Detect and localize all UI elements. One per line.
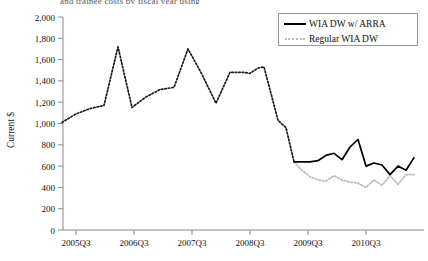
chart-figure: and trainee costs by fiscal year using 2… bbox=[0, 0, 428, 261]
y-tick-label: 800 bbox=[42, 140, 56, 150]
y-tick-label: 2,000 bbox=[35, 13, 56, 23]
y-axis-ticks bbox=[58, 17, 63, 230]
legend-solid-line-icon bbox=[284, 19, 306, 29]
x-axis-ticks bbox=[76, 230, 366, 235]
y-tick-label: 400 bbox=[42, 183, 56, 193]
x-tick-label: 2006Q3 bbox=[120, 238, 149, 248]
legend-label-regular: Regular WIA DW bbox=[309, 34, 378, 44]
y-tick-label: 1,400 bbox=[35, 76, 56, 86]
legend-entry-arra: WIA DW w/ ARRA bbox=[284, 16, 413, 31]
y-tick-label: 200 bbox=[42, 204, 56, 214]
legend-dotted-line-icon bbox=[284, 34, 306, 44]
x-tick-label: 2005Q3 bbox=[62, 238, 91, 248]
series-regular-wia-dw-early bbox=[62, 47, 294, 162]
y-tick-label: 1,800 bbox=[35, 34, 56, 44]
series-regular-wia-dw-late bbox=[294, 162, 414, 188]
x-axis-tick-labels: 2005Q3 2006Q3 2007Q3 2008Q3 2009Q3 2010Q… bbox=[62, 238, 381, 248]
y-axis-title: Current $ bbox=[6, 112, 16, 148]
chart-legend: WIA DW w/ ARRA Regular WIA DW bbox=[278, 13, 418, 46]
y-tick-label: 1,600 bbox=[35, 55, 56, 65]
y-axis-tick-labels: 2,000 1,800 1,600 1,400 1,200 1,000 800 … bbox=[35, 13, 56, 236]
y-tick-label: 0 bbox=[51, 226, 56, 236]
x-tick-label: 2009Q3 bbox=[294, 238, 323, 248]
x-tick-label: 2010Q3 bbox=[352, 238, 381, 248]
y-tick-label: 1,000 bbox=[35, 119, 56, 129]
y-tick-label: 1,200 bbox=[35, 98, 56, 108]
series-wia-dw-arra bbox=[294, 140, 414, 175]
y-tick-label: 600 bbox=[42, 162, 56, 172]
legend-entry-regular: Regular WIA DW bbox=[284, 31, 413, 46]
x-tick-label: 2007Q3 bbox=[178, 238, 207, 248]
x-tick-label: 2008Q3 bbox=[236, 238, 265, 248]
legend-label-arra: WIA DW w/ ARRA bbox=[309, 19, 386, 29]
